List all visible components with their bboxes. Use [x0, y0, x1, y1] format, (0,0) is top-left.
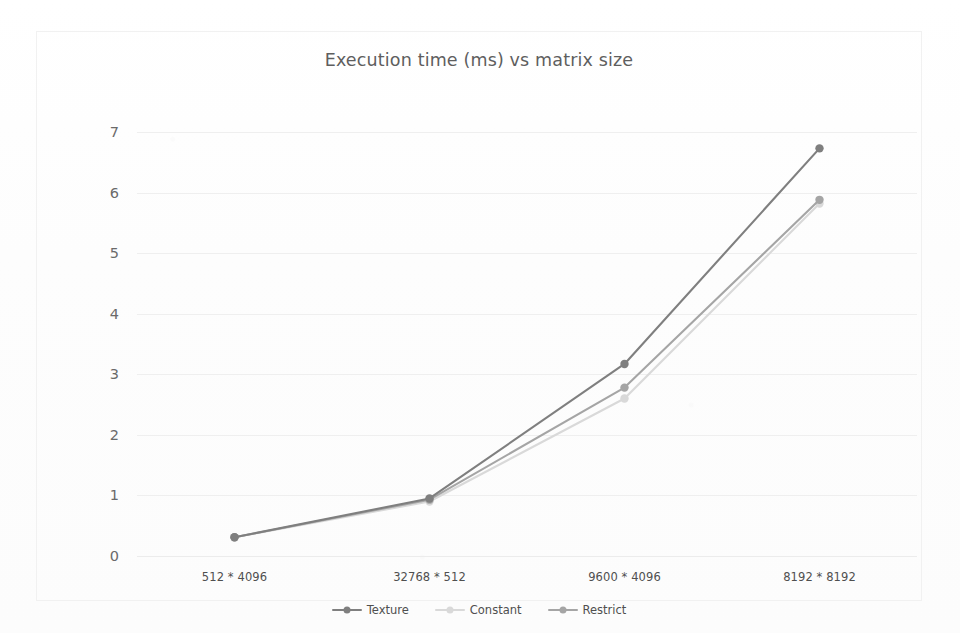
data-point-texture	[815, 144, 823, 152]
legend-swatch-texture	[332, 605, 362, 615]
legend-swatch-restrict	[548, 605, 578, 615]
legend-item-texture[interactable]: Texture	[332, 603, 409, 617]
legend-item-constant[interactable]: Constant	[435, 603, 522, 617]
legend-marker-icon	[446, 607, 453, 614]
data-point-texture	[230, 533, 238, 541]
series-line-restrict	[235, 200, 820, 537]
legend-marker-icon	[343, 607, 350, 614]
chart-container: Execution time (ms) vs matrix size 01234…	[36, 31, 922, 601]
data-point-restrict	[620, 383, 628, 391]
legend-swatch-constant	[435, 605, 465, 615]
series-lines	[37, 32, 960, 633]
data-point-restrict	[815, 196, 823, 204]
legend-label: Texture	[365, 603, 409, 617]
series-line-constant	[235, 203, 820, 537]
legend-label: Restrict	[581, 603, 627, 617]
series-line-texture	[235, 148, 820, 537]
legend-item-restrict[interactable]: Restrict	[548, 603, 627, 617]
data-point-constant	[620, 394, 628, 402]
legend-label: Constant	[468, 603, 522, 617]
chart-legend: TextureConstantRestrict	[37, 603, 921, 617]
data-point-texture	[425, 494, 433, 502]
legend-marker-icon	[559, 607, 566, 614]
data-point-texture	[620, 360, 628, 368]
